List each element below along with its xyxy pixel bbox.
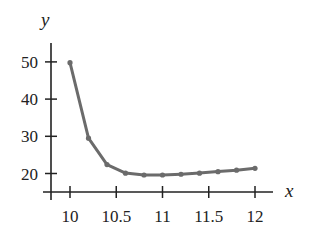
data-series (67, 60, 257, 178)
data-point-marker (104, 162, 109, 167)
x-tick-label: 10.5 (101, 207, 131, 226)
data-point-marker (178, 172, 183, 177)
data-point-marker (160, 172, 165, 177)
data-point-marker (234, 168, 239, 173)
ticks: 1010.51111.51220304050 (21, 53, 264, 226)
y-tick-label: 20 (21, 165, 38, 184)
y-tick-label: 50 (21, 53, 38, 72)
line-chart: 1010.51111.51220304050 y x (0, 0, 311, 243)
x-tick-label: 12 (247, 207, 264, 226)
x-tick-label: 11.5 (194, 207, 223, 226)
x-axis-label: x (284, 180, 294, 201)
y-axis-label: y (39, 9, 50, 30)
y-tick-label: 30 (21, 127, 38, 146)
x-tick-label: 11 (154, 207, 170, 226)
data-point-marker (141, 172, 146, 177)
data-point-marker (215, 169, 220, 174)
data-point-marker (123, 171, 128, 176)
y-tick-label: 40 (21, 90, 38, 109)
x-tick-label: 10 (62, 207, 79, 226)
data-point-marker (67, 60, 72, 65)
data-point-marker (252, 166, 257, 171)
data-point-marker (86, 136, 91, 141)
data-point-marker (197, 171, 202, 176)
data-line (70, 63, 255, 175)
